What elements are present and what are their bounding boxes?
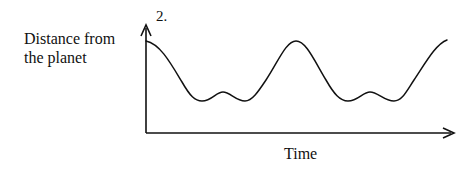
chart-plot bbox=[0, 0, 476, 170]
distance-curve bbox=[146, 40, 447, 101]
x-axis bbox=[146, 128, 454, 138]
